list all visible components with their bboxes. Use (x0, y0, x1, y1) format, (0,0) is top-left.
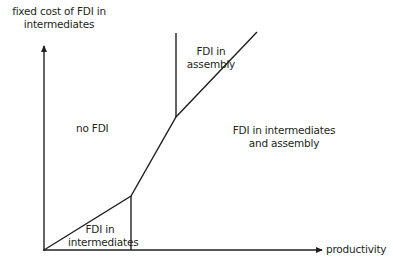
region-fdi-both: FDI in intermediates and assembly (224, 124, 344, 149)
region-fdi-intermediates-line1: FDI in (68, 223, 132, 236)
x-axis-label: productivity (326, 243, 386, 256)
diagram-canvas: fixed cost of FDI in intermediates produ… (0, 0, 393, 268)
region-fdi-both-line1: FDI in intermediates (224, 124, 344, 137)
region-no-fdi: no FDI (76, 122, 108, 135)
region-fdi-assembly-line2: assembly (184, 58, 238, 71)
region-fdi-both-line2: and assembly (224, 137, 344, 150)
region-fdi-assembly-line1: FDI in (184, 45, 238, 58)
region-fdi-intermediates: FDI in intermediates (68, 223, 132, 248)
y-axis-label-line2: intermediates (4, 18, 114, 31)
region-fdi-intermediates-line2: intermediates (68, 236, 132, 249)
y-axis-label-line1: fixed cost of FDI in (4, 5, 114, 18)
region-fdi-assembly: FDI in assembly (184, 45, 238, 70)
y-axis-label: fixed cost of FDI in intermediates (4, 5, 114, 30)
